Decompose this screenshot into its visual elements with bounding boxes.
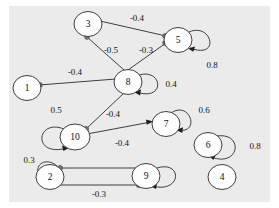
node-1-circle[interactable] <box>13 76 41 101</box>
node-8[interactable]: 8 <box>114 70 142 95</box>
self-loop-weight-5: 0.8 <box>206 60 218 70</box>
node-5-circle[interactable] <box>164 28 192 53</box>
node-6[interactable]: 6 <box>194 133 222 158</box>
edge-weight-9-2: -0.3 <box>92 189 107 199</box>
edge-weight-3-8: -0.5 <box>104 45 119 55</box>
edge-weight-10-7: -0.4 <box>115 138 130 148</box>
node-1[interactable]: 1 <box>13 76 41 101</box>
node-2-circle[interactable] <box>36 165 64 190</box>
node-6-circle[interactable] <box>194 133 222 158</box>
node-4-circle[interactable] <box>208 165 236 190</box>
graph-canvas: 1 2 3 4 5 6 7 <box>0 0 279 208</box>
node-10-circle[interactable] <box>60 124 90 150</box>
self-loop-weight-7: 0.6 <box>198 105 210 115</box>
self-loop-weight-8: 0.4 <box>165 79 177 89</box>
node-4[interactable]: 4 <box>208 165 236 190</box>
graph-figure: 1 2 3 4 5 6 7 <box>0 0 279 208</box>
edge-weight-8-10: -0.4 <box>106 109 121 119</box>
node-10[interactable]: 10 <box>60 124 90 150</box>
self-loop-weight-10: 0.5 <box>50 105 62 115</box>
node-7-circle[interactable] <box>152 112 180 137</box>
node-5[interactable]: 5 <box>164 28 192 53</box>
node-3[interactable]: 3 <box>74 12 102 37</box>
node-2[interactable]: 2 <box>36 165 64 190</box>
node-9[interactable]: 9 <box>132 164 160 189</box>
self-loop-weight-2: 0.3 <box>23 155 35 165</box>
edge-weight-1-8: -0.4 <box>68 67 83 77</box>
node-9-circle[interactable] <box>132 164 160 189</box>
node-8-circle[interactable] <box>114 70 142 95</box>
node-7[interactable]: 7 <box>152 112 180 137</box>
self-loop-weight-6: 0.8 <box>249 141 261 151</box>
edge-weight-3-5: -0.4 <box>130 13 145 23</box>
node-3-circle[interactable] <box>74 12 102 37</box>
edge-weight-8-5: -0.3 <box>139 45 154 55</box>
